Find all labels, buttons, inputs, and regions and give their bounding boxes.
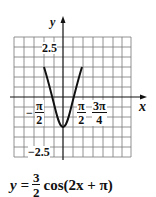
equation-coefficient: 3 2 [32,171,41,197]
x-tick-neg-pi-half-sign: − [26,107,33,119]
equation: y = 3 2 cos(2x + π) [10,171,113,197]
x-tick-neg-pi-half: π 2 [35,100,44,126]
y-axis-arrow-icon [61,16,66,23]
x-tick-3pi-quarter: 3π 4 [92,100,107,126]
x-axis-label: x [139,100,146,114]
equation-lhs: y = [10,177,29,194]
x-tick-pi-half: π 2 [77,100,86,126]
equation-rhs: cos(2x + π) [43,177,112,194]
y-axis-label: y [50,16,55,28]
y-tick-bottom: −2.5 [28,146,50,158]
y-tick-top: 2.5 [42,42,57,54]
